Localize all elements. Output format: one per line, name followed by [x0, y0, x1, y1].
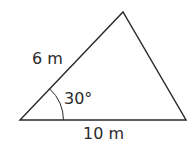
side-label-left: 6 m: [32, 51, 63, 67]
base-label: 10 m: [83, 126, 124, 142]
angle-arc: [50, 89, 64, 120]
angle-label: 30°: [64, 91, 92, 107]
